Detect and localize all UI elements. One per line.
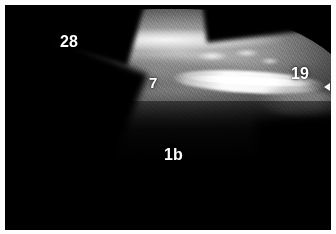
mask-top-left <box>5 5 155 66</box>
annotation-label-7: 7 <box>149 75 157 90</box>
hypoechoic-mid-band <box>33 53 283 93</box>
acoustic-shadow <box>5 101 331 230</box>
speckle-texture-fine <box>5 5 331 230</box>
left-fascial-band-lower <box>5 51 134 134</box>
annotation-label-19: 19 <box>291 66 309 82</box>
annotation-label-1b: 1b <box>164 147 183 163</box>
ultrasound-figure: 28 7 19 1b <box>0 0 336 234</box>
right-echo-band <box>254 84 331 124</box>
annotation-label-28: 28 <box>60 34 78 50</box>
caliper-marker-icon <box>324 83 330 91</box>
speckle-texture <box>5 5 331 230</box>
echogenic-fleck-cluster <box>191 45 287 71</box>
ultrasound-scan-area: 28 7 19 1b <box>5 5 331 230</box>
mask-top-right <box>197 5 331 43</box>
mask-lower-right <box>254 105 331 230</box>
soft-tissue-arc <box>5 9 331 159</box>
